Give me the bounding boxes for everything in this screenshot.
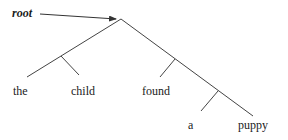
leaf-word-child: child — [71, 85, 95, 97]
leaf-word-found: found — [142, 85, 170, 97]
root-label: root — [12, 7, 32, 19]
edge-to-child — [61, 56, 79, 75]
tree-diagram: root the child found a puppy — [0, 0, 288, 140]
edge-to-a — [201, 91, 218, 111]
leaf-word-a: a — [188, 119, 193, 131]
leaf-word-puppy: puppy — [238, 119, 268, 131]
edge-root-to-puppy — [121, 19, 253, 116]
edge-root-to-the — [27, 19, 121, 77]
edge-to-found — [160, 59, 175, 77]
leaf-word-the: the — [13, 85, 28, 97]
root-pointer-arrow — [40, 14, 116, 19]
